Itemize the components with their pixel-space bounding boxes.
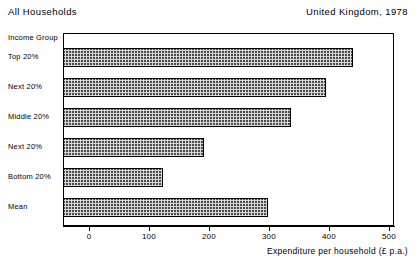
- category-label-middle-20: Middle 20%: [8, 112, 49, 121]
- category-label-next-20-lower: Next 20%: [8, 142, 42, 151]
- bar-middle-20: [63, 108, 291, 127]
- x-axis-line: [63, 226, 395, 227]
- x-tick-500: [389, 227, 390, 231]
- bar-bottom-20: [63, 168, 163, 187]
- x-tick-label-300: 300: [262, 232, 276, 241]
- x-tick-label-0: 0: [87, 232, 92, 241]
- x-tick-400: [329, 227, 330, 231]
- chart-subtitle: United Kingdom, 1978: [306, 6, 408, 17]
- bar-mean: [63, 198, 268, 217]
- x-axis-title: Expenditure per household (£ p.a.): [267, 246, 408, 256]
- x-tick-label-400: 400: [322, 232, 336, 241]
- category-axis-title: Income Group: [8, 33, 58, 42]
- x-tick-0: [89, 227, 90, 231]
- bar-next-20-lower: [63, 138, 204, 157]
- category-label-next-20-upper: Next 20%: [8, 82, 42, 91]
- category-label-bottom-20: Bottom 20%: [8, 172, 51, 181]
- category-label-mean: Mean: [8, 202, 28, 211]
- category-label-top-20: Top 20%: [8, 52, 39, 61]
- bar-next-20-upper: [63, 78, 326, 97]
- bar-top-20: [63, 48, 353, 67]
- x-tick-label-100: 100: [142, 232, 156, 241]
- bar-chart: All Households United Kingdom, 1978 Inco…: [0, 0, 417, 268]
- chart-title: All Households: [8, 6, 77, 17]
- x-tick-label-200: 200: [202, 232, 216, 241]
- x-tick-100: [149, 227, 150, 231]
- x-tick-300: [269, 227, 270, 231]
- x-tick-label-500: 500: [382, 232, 396, 241]
- x-tick-200: [209, 227, 210, 231]
